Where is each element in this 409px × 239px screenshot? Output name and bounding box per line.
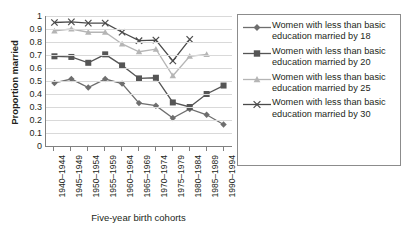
gridline	[46, 42, 232, 43]
gridline	[46, 68, 232, 69]
y-axis-tick-label: 1	[37, 11, 42, 21]
legend-item-label: Women with less than basic education mar…	[272, 46, 396, 69]
legend-item[interactable]: Women with less than basic education mar…	[242, 20, 396, 43]
x-axis-tick-labels: 1940–19441945–19491950–19541955–19591960…	[45, 155, 232, 207]
y-axis-tick-label: 0.6	[29, 63, 42, 73]
x-axis-tick-mark	[53, 147, 54, 151]
x-axis-tick-mark	[121, 147, 122, 151]
chart-legend: Women with less than basic education mar…	[237, 14, 401, 166]
diamond-marker-icon	[203, 112, 209, 118]
y-axis-tick-label: 0.3	[29, 102, 42, 112]
square-marker-icon	[242, 47, 272, 60]
y-axis-title: Proportion married	[6, 26, 22, 138]
x-axis-tick-label: 1985–1989	[210, 155, 220, 198]
x-axis-tick-label: 1980–1984	[193, 155, 203, 198]
gridline	[46, 55, 232, 56]
x-marker-icon	[170, 58, 176, 64]
y-axis-tick-label: 0.4	[29, 89, 42, 99]
x-marker-icon	[242, 98, 272, 111]
gridline	[46, 29, 232, 30]
x-axis-tick-mark	[87, 147, 88, 151]
y-axis-tick-label: 0.7	[29, 50, 42, 60]
x-axis-tick-mark	[172, 147, 173, 151]
legend-item[interactable]: Women with less than basic education mar…	[242, 97, 396, 120]
gridline	[46, 94, 232, 95]
legend-item-label: Women with less than basic education mar…	[272, 97, 396, 120]
y-axis-tick-label: 0	[37, 141, 42, 151]
y-axis-title-label: Proportion married	[9, 40, 20, 124]
y-axis-tick-label: 0.8	[29, 37, 42, 47]
y-axis-tick-label: 0.1	[29, 128, 42, 138]
diamond-marker-icon	[85, 84, 91, 90]
y-axis-tick-label: 0.9	[29, 24, 42, 34]
legend-item[interactable]: Women with less than basic education mar…	[242, 46, 396, 69]
x-axis-tick-label: 1945–1949	[74, 155, 84, 198]
gridline	[46, 16, 232, 17]
x-axis-title: Five-year birth cohorts	[45, 212, 232, 223]
x-axis-title-label: Five-year birth cohorts	[91, 212, 186, 223]
square-marker-icon	[153, 75, 159, 81]
legend-item-label: Women with less than basic education mar…	[272, 72, 396, 95]
square-marker-icon	[221, 83, 227, 89]
triangle-marker-icon	[242, 73, 272, 86]
x-axis-tick-label: 1950–1954	[91, 155, 101, 198]
gridline	[46, 81, 232, 82]
x-axis-tick-mark	[189, 147, 190, 151]
x-axis-tick-mark	[155, 147, 156, 151]
x-axis-tick-label: 1970–1974	[159, 155, 169, 198]
y-axis-tick-label: 0.5	[29, 76, 42, 86]
square-marker-icon	[254, 50, 260, 56]
x-axis-tick-label: 1940–1944	[57, 155, 67, 198]
x-axis-tick-label: 1955–1959	[108, 155, 118, 198]
x-axis-tick-label: 1965–1969	[142, 155, 152, 198]
diamond-marker-icon	[242, 21, 272, 34]
x-axis-tick-mark	[206, 147, 207, 151]
legend-item-label: Women with less than basic education mar…	[272, 20, 396, 43]
x-axis-tick-mark	[138, 147, 139, 151]
square-marker-icon	[170, 99, 176, 105]
series-3	[51, 26, 210, 79]
gridline	[46, 120, 232, 121]
plot-area	[45, 16, 232, 147]
y-axis-tick-labels: 10.90.80.70.60.50.40.30.20.10	[22, 10, 42, 146]
x-marker-icon	[119, 29, 125, 35]
square-marker-icon	[85, 60, 91, 66]
x-axis-tick-mark	[104, 147, 105, 151]
x-axis-tick-label: 1960–1964	[125, 155, 135, 198]
x-axis-tick-label: 1975–1979	[176, 155, 186, 198]
diamond-marker-icon	[220, 121, 226, 127]
gridline	[46, 133, 232, 134]
diamond-marker-icon	[254, 24, 261, 31]
y-axis-tick-label: 0.2	[29, 115, 42, 125]
x-axis-tick-mark	[70, 147, 71, 151]
x-axis-tick-label: 1990–1994	[227, 155, 237, 198]
triangle-marker-icon	[153, 46, 159, 52]
x-axis-tick-mark	[223, 147, 224, 151]
legend-item[interactable]: Women with less than basic education mar…	[242, 72, 396, 95]
line-chart: Proportion married 10.90.80.70.60.50.40.…	[0, 0, 409, 239]
gridline	[46, 107, 232, 108]
